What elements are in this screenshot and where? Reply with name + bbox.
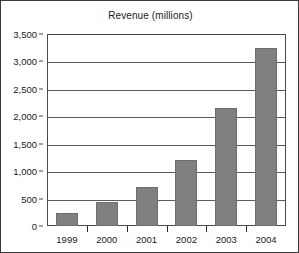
x-axis-tick-label: 2000 <box>96 234 117 245</box>
bar <box>56 213 78 226</box>
y-axis-tick-mark <box>39 116 43 117</box>
bar <box>215 108 237 226</box>
y-axis-tick-label: 3,000 <box>13 56 37 67</box>
y-axis-tick-label: 500 <box>21 193 37 204</box>
bar <box>255 48 277 226</box>
x-axis-tick-label: 1999 <box>56 234 77 245</box>
x-axis-tick-label: 2001 <box>136 234 157 245</box>
y-axis-tick-label: 2,000 <box>13 111 37 122</box>
bar <box>96 202 118 226</box>
y-axis-tick-mark <box>39 61 43 62</box>
x-axis-tick-mark <box>87 226 88 232</box>
x-axis-tick-mark <box>246 226 247 232</box>
y-axis-tick-mark <box>39 171 43 172</box>
x-axis-tick-label: 2004 <box>256 234 277 245</box>
chart-title: Revenue (millions) <box>1 10 299 21</box>
bar <box>136 187 158 226</box>
bar <box>175 160 197 226</box>
y-axis-tick-label: 0 <box>32 221 37 232</box>
y-axis-tick-label: 2,500 <box>13 83 37 94</box>
y-axis-tick-mark <box>39 88 43 89</box>
y-axis-tick-mark <box>39 143 43 144</box>
chart-figure-frame: Revenue (millions) 05001,0001,5002,0002,… <box>0 0 299 253</box>
y-axis-tick-mark <box>39 198 43 199</box>
x-axis-tick-label: 2002 <box>176 234 197 245</box>
bar-series <box>47 34 286 226</box>
y-axis-tick-label: 1,000 <box>13 166 37 177</box>
y-axis-tick-mark <box>39 226 43 227</box>
x-axis: 199920002001200220032004 <box>47 226 286 252</box>
x-axis-tick-label: 2003 <box>216 234 237 245</box>
y-axis-tick-label: 3,500 <box>13 29 37 40</box>
x-axis-tick-mark <box>167 226 168 232</box>
y-axis: 05001,0001,5002,0002,5003,0003,500 <box>1 34 43 226</box>
y-axis-tick-mark <box>39 34 43 35</box>
y-axis-tick-label: 1,500 <box>13 138 37 149</box>
x-axis-tick-mark <box>206 226 207 232</box>
x-axis-tick-mark <box>127 226 128 232</box>
